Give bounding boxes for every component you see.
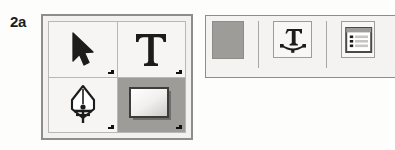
figure-label: 2a <box>10 14 26 29</box>
type-on-path-button[interactable] <box>273 21 312 58</box>
panel-list-button[interactable] <box>341 21 375 58</box>
pen-nib-icon <box>67 84 99 126</box>
toolbar-divider <box>258 21 259 68</box>
tools-panel <box>41 14 193 140</box>
tool-rectangle[interactable] <box>118 78 186 133</box>
rectangle-gradient-icon <box>128 86 174 124</box>
tool-type[interactable] <box>118 22 186 77</box>
toolbar-divider <box>326 21 327 68</box>
flyout-triangle-icon <box>106 121 114 129</box>
panel-list-icon <box>345 26 373 54</box>
type-t-icon <box>133 29 169 69</box>
flyout-triangle-icon <box>174 66 182 74</box>
tool-pen[interactable] <box>49 78 117 133</box>
flyout-triangle-icon <box>174 121 182 129</box>
options-bar <box>205 15 395 78</box>
tools-grid <box>48 21 186 133</box>
type-on-path-icon <box>278 26 308 54</box>
flyout-triangle-icon <box>106 66 114 74</box>
color-swatch-icon[interactable] <box>212 21 244 59</box>
arrow-cursor-icon <box>68 31 98 67</box>
tool-selection[interactable] <box>49 22 117 77</box>
